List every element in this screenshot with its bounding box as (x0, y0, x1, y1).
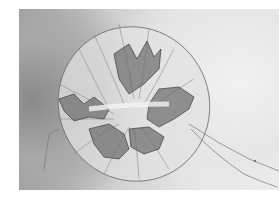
jellyfish-photo (19, 9, 279, 190)
jellyfish-illustration (19, 9, 279, 190)
